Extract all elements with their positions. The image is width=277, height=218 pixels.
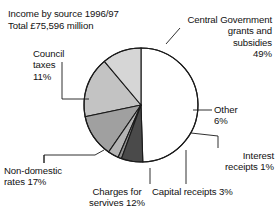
slice-label-charges-for-services: Charges for servives 12%	[79, 186, 155, 209]
pie-chart-figure: Income by source 1996/97Total £75,596 mi…	[0, 0, 277, 218]
leader-line-non-domestic-rates	[44, 150, 104, 163]
slice-central-government	[141, 48, 198, 162]
slice-label-central-government: Central Government grants and subsidies …	[158, 14, 272, 60]
slice-label-interest-receipts: Interest receipts 1%	[196, 150, 274, 173]
slice-label-council-taxes: Council taxes 11%	[33, 48, 93, 82]
slice-label-non-domestic-rates: Non-domestic rates 17%	[4, 165, 88, 188]
leader-line-interest-receipts	[191, 133, 218, 148]
slice-label-other: Other 6%	[214, 104, 266, 127]
slice-label-capital-receipts: Capital receipts 3%	[152, 186, 272, 197]
